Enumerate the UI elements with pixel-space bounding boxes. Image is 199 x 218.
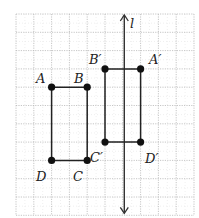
label-B-prime: B′ — [88, 52, 102, 67]
label-D: D — [35, 169, 47, 184]
vertex-point-B — [84, 84, 91, 91]
vertex-point-A — [48, 84, 55, 91]
vertex-point-C′ — [101, 139, 108, 146]
label-A: A — [35, 71, 45, 86]
vertex-point-D — [48, 157, 55, 164]
line-of-reflection — [120, 15, 128, 213]
reflection-diagram: l A B D C B′ A′ C′ D′ — [0, 0, 199, 218]
label-C: C — [73, 169, 83, 184]
vertex-point-B′ — [101, 65, 108, 72]
vertex-point-D′ — [137, 139, 144, 146]
vertex-point-A′ — [137, 65, 144, 72]
label-B: B — [73, 71, 84, 86]
label-l: l — [130, 16, 134, 31]
label-A-prime: A′ — [148, 52, 161, 67]
label-D-prime: D′ — [144, 151, 158, 166]
label-C-prime: C′ — [90, 150, 103, 165]
